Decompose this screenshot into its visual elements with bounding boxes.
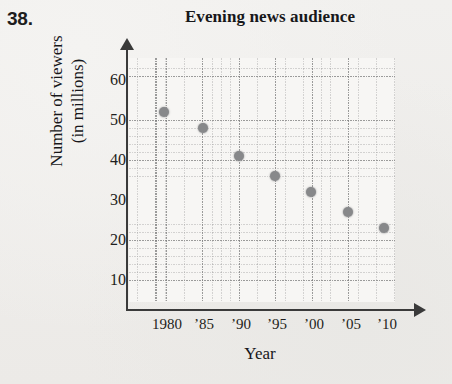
x-tick-label-05: ’05	[341, 316, 361, 333]
data-point	[234, 151, 244, 161]
x-axis-line	[126, 309, 416, 311]
scatter-plot: 60 50 40 30 20 10 1980 ’85 ’90 ’95 ’00 ’…	[0, 0, 452, 384]
x-axis-title: Year	[180, 344, 340, 364]
data-point	[343, 207, 353, 217]
y-axis-title-line2: (in millions)	[67, 0, 88, 211]
data-point	[306, 187, 316, 197]
y-axis-title-line1: Number of viewers	[46, 0, 67, 211]
plot-gridlines	[129, 58, 395, 302]
y-tick-label-40: 40	[92, 151, 126, 169]
y-axis-arrow-icon	[120, 38, 134, 50]
y-tick-label-20: 20	[92, 231, 126, 249]
y-axis-line	[126, 46, 128, 311]
y-tick-label-50: 50	[92, 111, 126, 129]
x-axis-arrow-icon	[414, 303, 426, 317]
y-tick-label-10: 10	[92, 271, 126, 289]
y-tick-label-30: 30	[92, 191, 126, 209]
data-point	[159, 107, 169, 117]
x-tick-label-10: ’10	[377, 316, 397, 333]
x-tick-label-1980: 1980	[152, 316, 182, 333]
data-point	[379, 223, 389, 233]
y-tick-label-60: 60	[92, 71, 126, 89]
x-tick-label-00: ’00	[304, 316, 324, 333]
x-tick-label-95: ’95	[267, 316, 287, 333]
y-axis-title: Number of viewers (in millions)	[46, 0, 88, 211]
x-tick-label-90: ’90	[231, 316, 251, 333]
x-tick-label-85: ’85	[194, 316, 214, 333]
data-point	[198, 123, 208, 133]
data-point	[270, 171, 280, 181]
